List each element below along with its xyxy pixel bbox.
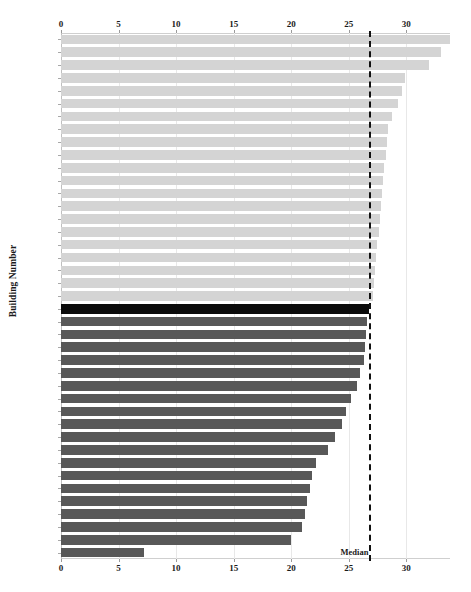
x-tick [291, 559, 292, 562]
bar-9441 [61, 163, 384, 173]
bar-row: 857 [61, 123, 450, 136]
bar-row: 6432 [61, 367, 450, 380]
bar-3661 [61, 253, 376, 263]
bar-6412 [61, 240, 377, 250]
y-tick [58, 104, 61, 105]
bar-7631 [61, 432, 335, 442]
y-tick [58, 232, 61, 233]
bar-9449 [61, 509, 305, 519]
y-tick [58, 334, 61, 335]
bar-6661 [61, 189, 382, 199]
bar-4432 [61, 266, 375, 276]
bar-row: 3661 [61, 251, 450, 264]
bar-row: 5001 [61, 392, 450, 405]
y-tick [58, 386, 61, 387]
y-tick [58, 258, 61, 259]
bar-row: 9649 [61, 521, 450, 534]
bar-4522 [61, 278, 374, 288]
y-tick [58, 450, 61, 451]
y-tick [58, 129, 61, 130]
bar-row: 2847 [61, 418, 450, 431]
bar-row: 6661 [61, 187, 450, 200]
bar-4412 [61, 150, 386, 160]
y-tick [58, 373, 61, 374]
bar-row: 4702 [61, 328, 450, 341]
y-tick [58, 322, 61, 323]
plot-area: 005510101515202025253030 605725514551152… [61, 33, 450, 559]
bar-5001 [61, 394, 351, 404]
x-tick-label-15: 15 [229, 563, 238, 573]
x-tick [234, 559, 235, 562]
y-tick [58, 501, 61, 502]
bar-row: 847 [61, 482, 450, 495]
bar-row: 1502 [61, 533, 450, 546]
x-tick-label-15: 15 [229, 19, 238, 29]
bar-432 [61, 548, 144, 558]
bar-row: 1702 [61, 174, 450, 187]
bar-1502 [61, 535, 291, 545]
x-tick-label-25: 25 [344, 19, 353, 29]
x-tick [349, 559, 350, 562]
y-tick [58, 270, 61, 271]
bar-row: 6412 [61, 238, 450, 251]
y-tick [58, 309, 61, 310]
bar-657 [61, 86, 402, 96]
bar-4702 [61, 330, 366, 340]
y-tick [58, 399, 61, 400]
bar-row: 7631 [61, 431, 450, 444]
x-tick-label-10: 10 [172, 563, 181, 573]
y-tick [58, 553, 61, 554]
x-tick-label-25: 25 [344, 563, 353, 573]
bar-row: 6631 [61, 200, 450, 213]
y-tick [58, 488, 61, 489]
bar-1512 [61, 137, 387, 147]
bar-row: 6057 [61, 33, 450, 46]
y-tick [58, 296, 61, 297]
bar-row: 4551 [61, 59, 450, 72]
bar-3401 [61, 355, 364, 365]
y-tick [58, 527, 61, 528]
bar-row: 4401 [61, 315, 450, 328]
y-tick [58, 78, 61, 79]
bar-row: 9449 [61, 508, 450, 521]
x-tick-label-20: 20 [287, 19, 296, 29]
y-tick [58, 206, 61, 207]
median-line [369, 31, 371, 561]
bar-6631 [61, 201, 381, 211]
x-tick-label-0: 0 [59, 563, 64, 573]
y-tick [58, 168, 61, 169]
y-tick [58, 181, 61, 182]
y-tick [58, 411, 61, 412]
bar-row: 6401 [61, 225, 450, 238]
bar-5631 [61, 99, 398, 109]
bar-6432 [61, 368, 360, 378]
y-tick [58, 155, 61, 156]
bar-3631 [61, 496, 307, 506]
y-tick [58, 540, 61, 541]
bar-row: 2551 [61, 46, 450, 59]
bar-4401 [61, 317, 367, 327]
y-tick [58, 437, 61, 438]
x-tick-label-20: 20 [287, 563, 296, 573]
bar-Median [61, 304, 369, 314]
y-tick [58, 65, 61, 66]
median-label: Median [341, 547, 369, 557]
bar-row: 7661 [61, 213, 450, 226]
x-tick-label-5: 5 [116, 563, 121, 573]
bar-row: 5631 [61, 97, 450, 110]
bar-row: 4522 [61, 277, 450, 290]
x-tick-label-30: 30 [402, 19, 411, 29]
x-tick [119, 559, 120, 562]
bar-row: 657 [61, 84, 450, 97]
bar-6057 [61, 35, 450, 45]
bar-row: 4661 [61, 110, 450, 123]
bar-4512 [61, 342, 365, 352]
x-tick-label-5: 5 [116, 19, 121, 29]
y-tick [58, 424, 61, 425]
bar-row: 4631 [61, 379, 450, 392]
bar-1702 [61, 176, 383, 186]
y-tick [58, 116, 61, 117]
y-tick [58, 283, 61, 284]
bar-row: 4502 [61, 444, 450, 457]
bar-4631 [61, 381, 357, 391]
